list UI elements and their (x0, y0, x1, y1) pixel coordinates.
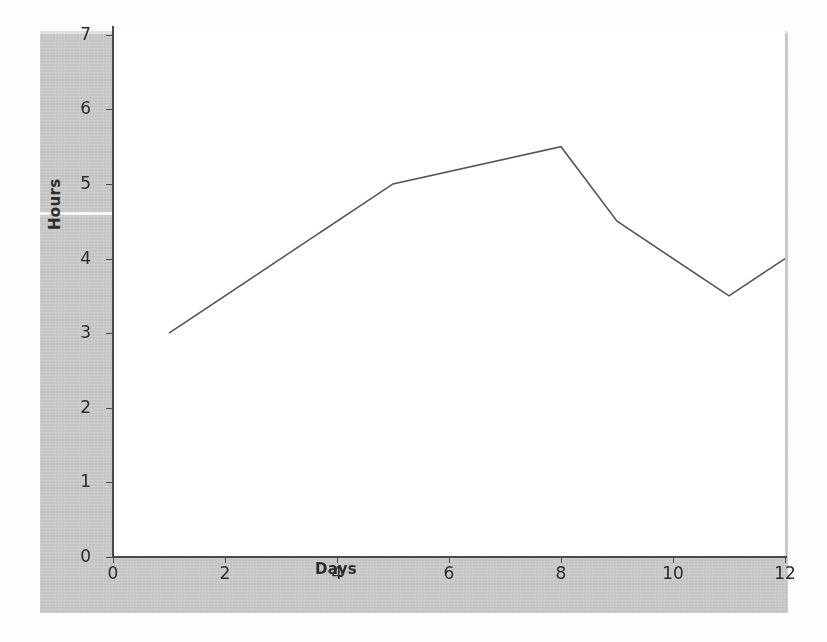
x-axis-label: Days (0, 560, 672, 578)
y-tick-label-3: 3 (65, 324, 91, 341)
y-tick-label-1: 1 (65, 473, 91, 490)
y-tick-label-6: 6 (65, 100, 91, 117)
y-tick-3 (106, 333, 112, 334)
y-tick-2 (106, 408, 112, 409)
y-axis-label: Hours (46, 179, 64, 230)
scanned-page: 7 6 5 4 3 2 1 0 0 2 4 6 8 10 12 Hours (0, 0, 827, 642)
plot-area: 7 6 5 4 3 2 1 0 0 2 4 6 8 10 12 (113, 31, 785, 557)
y-tick-6 (106, 109, 112, 110)
x-tick-label-12: 12 (765, 565, 805, 582)
line-series (113, 31, 785, 561)
y-tick-label-4: 4 (65, 250, 91, 267)
y-tick-4 (106, 259, 112, 260)
y-tick-label-5: 5 (65, 175, 91, 192)
y-tick-0 (106, 557, 112, 558)
y-tick-1 (106, 482, 112, 483)
y-tick-label-7: 7 (65, 26, 91, 43)
y-tick-label-2: 2 (65, 399, 91, 416)
y-tick-7 (106, 35, 112, 36)
y-tick-5 (106, 184, 112, 185)
